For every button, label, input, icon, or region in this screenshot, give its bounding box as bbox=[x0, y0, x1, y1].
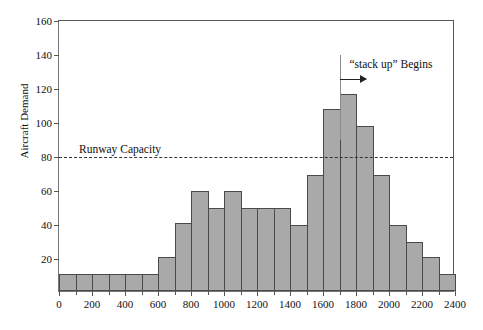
x-tick-mark bbox=[125, 291, 126, 296]
x-tick-mark bbox=[422, 291, 423, 296]
bar bbox=[59, 274, 77, 291]
bar bbox=[389, 225, 407, 291]
bar bbox=[92, 274, 110, 291]
bar bbox=[356, 126, 374, 291]
x-minor-tick-mark bbox=[175, 291, 176, 295]
plot-area: 2040608010012014016002004006008001000120… bbox=[58, 20, 454, 292]
x-minor-tick-mark bbox=[274, 291, 275, 295]
bar bbox=[290, 225, 308, 291]
x-minor-tick-mark bbox=[373, 291, 374, 295]
bar bbox=[323, 109, 341, 291]
bar bbox=[257, 208, 275, 291]
x-tick-label: 1200 bbox=[246, 298, 268, 310]
plot-inner: 2040608010012014016002004006008001000120… bbox=[59, 21, 453, 291]
bar bbox=[175, 223, 193, 291]
x-tick-label: 1400 bbox=[279, 298, 301, 310]
bar bbox=[224, 191, 242, 291]
x-tick-mark bbox=[356, 291, 357, 296]
x-minor-tick-mark bbox=[241, 291, 242, 295]
x-tick-mark bbox=[158, 291, 159, 296]
x-minor-tick-mark bbox=[76, 291, 77, 295]
bar bbox=[307, 175, 325, 291]
bar bbox=[241, 208, 259, 291]
bar bbox=[406, 242, 424, 291]
x-tick-label: 600 bbox=[150, 298, 167, 310]
x-tick-label: 0 bbox=[56, 298, 62, 310]
x-tick-label: 2000 bbox=[378, 298, 400, 310]
x-tick-label: 1600 bbox=[312, 298, 334, 310]
x-tick-mark bbox=[191, 291, 192, 296]
bar bbox=[76, 274, 94, 291]
runway-capacity-line bbox=[59, 157, 453, 158]
bar bbox=[142, 274, 160, 291]
y-tick-label: 60 bbox=[8, 185, 59, 197]
x-tick-mark bbox=[455, 291, 456, 296]
x-minor-tick-mark bbox=[142, 291, 143, 295]
x-tick-label: 2400 bbox=[444, 298, 466, 310]
x-tick-mark bbox=[323, 291, 324, 296]
x-minor-tick-mark bbox=[307, 291, 308, 295]
x-minor-tick-mark bbox=[208, 291, 209, 295]
x-tick-mark bbox=[224, 291, 225, 296]
x-tick-label: 400 bbox=[117, 298, 134, 310]
y-tick-label: 100 bbox=[8, 117, 59, 129]
x-minor-tick-mark bbox=[439, 291, 440, 295]
x-tick-mark bbox=[92, 291, 93, 296]
stack-up-guide-line bbox=[340, 55, 341, 140]
x-tick-label: 800 bbox=[183, 298, 200, 310]
y-tick-label: 160 bbox=[8, 15, 59, 27]
bar bbox=[373, 175, 391, 291]
bar bbox=[158, 257, 176, 291]
x-minor-tick-mark bbox=[406, 291, 407, 295]
runway-capacity-label: Runway Capacity bbox=[79, 143, 161, 157]
bar bbox=[109, 274, 127, 291]
x-tick-mark bbox=[290, 291, 291, 296]
bar bbox=[125, 274, 143, 291]
x-tick-mark bbox=[257, 291, 258, 296]
chart-root: Aircraft Demand 204060801001201401600200… bbox=[0, 0, 483, 330]
x-minor-tick-mark bbox=[340, 291, 341, 295]
bar bbox=[274, 208, 292, 291]
y-tick-label: 40 bbox=[8, 219, 59, 231]
stack-up-label: “stack up” Begins bbox=[349, 58, 432, 70]
bar bbox=[340, 94, 358, 291]
x-tick-label: 1800 bbox=[345, 298, 367, 310]
arrow-head-icon bbox=[360, 75, 367, 83]
x-tick-label: 2200 bbox=[411, 298, 433, 310]
y-tick-label: 80 bbox=[8, 151, 59, 163]
bar bbox=[191, 191, 209, 291]
x-tick-label: 1000 bbox=[213, 298, 235, 310]
bar bbox=[422, 257, 440, 291]
bar bbox=[439, 274, 457, 291]
x-minor-tick-mark bbox=[109, 291, 110, 295]
x-tick-mark bbox=[59, 291, 60, 296]
x-tick-mark bbox=[389, 291, 390, 296]
y-tick-label: 20 bbox=[8, 253, 59, 265]
bar bbox=[208, 208, 226, 291]
y-tick-label: 140 bbox=[8, 49, 59, 61]
x-tick-label: 200 bbox=[84, 298, 101, 310]
y-tick-label: 120 bbox=[8, 83, 59, 95]
